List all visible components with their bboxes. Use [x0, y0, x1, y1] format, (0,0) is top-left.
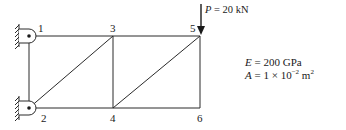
truss-members: [29, 36, 200, 108]
node-label-5: 5: [190, 23, 196, 34]
modulus-symbol: E: [245, 56, 252, 68]
modulus-line: E = 200 GPa: [245, 56, 314, 69]
load-equals: =: [211, 4, 222, 15]
load-arrow-icon: [197, 4, 205, 35]
node-label-2: 2: [41, 113, 47, 124]
load-value: 20 kN: [223, 4, 249, 15]
node-label-6: 6: [197, 113, 203, 124]
area-exponent: −2: [292, 68, 299, 76]
node-label-1: 1: [38, 23, 44, 34]
load-label: P = 20 kN: [205, 4, 249, 15]
area-line: A = 1 × 10−2 m2: [245, 69, 314, 82]
node-label-4: 4: [110, 113, 116, 124]
area-symbol: A: [245, 69, 252, 81]
member-2-3: [29, 36, 113, 108]
node-label-3: 3: [110, 23, 116, 34]
member-4-5: [113, 36, 200, 108]
pin-support-node-1: [15, 24, 36, 49]
hatch-icon: [15, 97, 19, 121]
pin-dot-icon: [27, 106, 31, 110]
material-properties: E = 200 GPa A = 1 × 10−2 m2: [245, 56, 314, 82]
pin-support-node-2: [15, 96, 36, 121]
modulus-value: = 200 GPa: [252, 56, 302, 68]
area-value: = 1 × 10: [252, 69, 292, 81]
area-unit: m: [299, 69, 310, 81]
area-unit-exponent: 2: [310, 68, 314, 76]
pin-dot-icon: [27, 34, 31, 38]
hatch-icon: [15, 25, 19, 49]
